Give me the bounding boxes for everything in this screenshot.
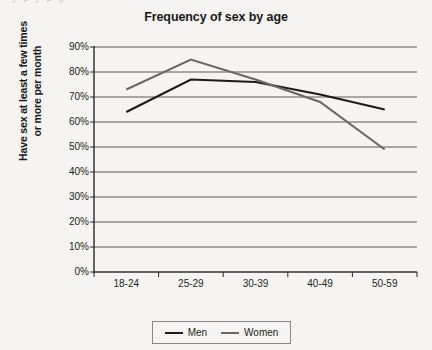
plot-area	[0, 0, 432, 350]
legend-swatch-women	[221, 332, 239, 334]
gridlines	[94, 47, 417, 272]
line-chart-svg	[0, 0, 432, 350]
x-tick-label-50-59: 50-59	[352, 278, 417, 294]
x-tick-label-18-24: 18-24	[94, 278, 159, 294]
data-series-lines	[126, 60, 384, 150]
x-tick-label-30-39: 30-39	[223, 278, 288, 294]
series-line-men	[126, 80, 384, 113]
x-tick-label-40-49: 40-49	[288, 278, 353, 294]
legend-label-men: Men	[188, 328, 207, 338]
legend-item-men: Men	[165, 328, 207, 338]
x-axis-tick-labels: 18-2425-2930-3940-4950-59	[94, 278, 417, 294]
legend-swatch-men	[165, 332, 183, 334]
series-line-women	[126, 60, 384, 150]
legend-label-women: Women	[244, 328, 278, 338]
legend-item-women: Women	[221, 328, 278, 338]
x-tick-label-25-29: 25-29	[159, 278, 224, 294]
chart-legend: MenWomen	[152, 321, 291, 344]
chart-page: y p y p g Frequency of sex by age Have s…	[0, 0, 432, 350]
x-axis-tick-marks	[94, 272, 417, 277]
